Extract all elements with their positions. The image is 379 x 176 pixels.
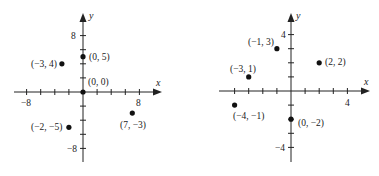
x-axis-arrow-icon (153, 89, 162, 96)
y-axis-arrow-icon (80, 13, 87, 22)
y-axis-label: y (295, 10, 301, 21)
point-label: (−4, −1) (233, 111, 264, 122)
tick-label-x-neg8: −8 (21, 98, 31, 108)
point-2-2 (317, 60, 322, 65)
point-7-neg3 (130, 111, 135, 116)
tick-label-y-neg4: −4 (275, 143, 285, 153)
tick-label-x-4: 4 (345, 98, 350, 108)
point-label: (−3, 1) (230, 64, 256, 75)
point-neg3-1 (246, 74, 251, 79)
x-axis-label: x (363, 76, 369, 87)
x-axis-arrow-icon (361, 88, 370, 95)
right-coordinate-plane: y x 4 4 −4 (−1, 3) (2, 2) (−3, 1) (−4, −… (219, 10, 370, 162)
x-axis-label: x (155, 77, 161, 88)
point-label: (−1, 3) (248, 37, 274, 48)
point-label: (7, −3) (120, 120, 146, 131)
y-axis-arrow-icon (288, 13, 295, 22)
y-axis-label: y (88, 10, 94, 21)
point-neg4-neg1 (232, 103, 237, 108)
left-coordinate-plane: y x −8 8 8 −8 (−3, 4) (0, 5) (0, 0) (7, … (14, 10, 162, 162)
tick-label-y-neg8: −8 (67, 144, 77, 154)
point-0-5 (80, 54, 85, 59)
point-0-0 (80, 89, 85, 94)
point-0-neg2 (288, 117, 293, 122)
tick-label-y-4: 4 (281, 30, 286, 40)
coordinate-planes: y x −8 8 8 −8 (−3, 4) (0, 5) (0, 0) (7, … (0, 0, 379, 176)
point-label: (0, 0) (88, 77, 109, 88)
point-label: (0, 5) (89, 52, 110, 63)
point-neg2-neg5 (66, 125, 71, 130)
point-neg3-4 (59, 61, 64, 66)
tick-label-x-8: 8 (136, 98, 141, 108)
point-label: (2, 2) (325, 57, 346, 68)
tick-label-y-8: 8 (71, 31, 76, 41)
point-label: (−3, 4) (31, 59, 57, 70)
point-label: (−2, −5) (31, 122, 62, 133)
point-label: (0, −2) (298, 118, 324, 129)
point-neg1-3 (274, 46, 279, 51)
